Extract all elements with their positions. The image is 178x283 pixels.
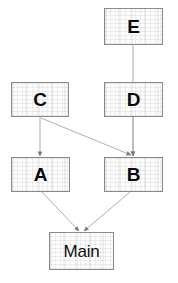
node-d-label: D [127,90,141,109]
dependency-diagram: E C D A B Main [0,0,178,283]
node-e[interactable]: E [104,8,163,45]
node-c-label: C [33,90,47,109]
node-b[interactable]: B [104,157,163,192]
edges-group [40,45,133,231]
node-b-label: B [127,165,141,184]
node-main[interactable]: Main [49,232,114,270]
edge-b-to-main [84,192,130,231]
node-a[interactable]: A [11,157,70,192]
edge-a-to-main [42,192,79,231]
node-a-label: A [34,165,48,184]
node-d[interactable]: D [104,82,163,117]
node-e-label: E [127,17,139,36]
node-c[interactable]: C [11,82,69,117]
edge-c-to-b [41,118,131,155]
node-main-label: Main [63,243,99,260]
